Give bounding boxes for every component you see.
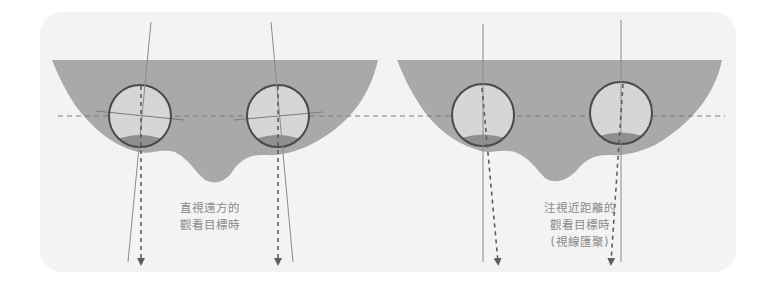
caption-line: 注視近距離的 (525, 200, 635, 217)
caption-near-viewing: 注視近距離的 觀看目標時 (視線匯聚) (525, 200, 635, 251)
caption-line: 觀看目標時 (525, 217, 635, 234)
caption-line: (視線匯聚) (525, 234, 635, 251)
eye-gaze-diagram (0, 0, 768, 287)
caption-line: 觀看目標時 (160, 217, 260, 234)
caption-line: 直視遠方的 (160, 200, 260, 217)
caption-far-viewing: 直視遠方的 觀看目標時 (160, 200, 260, 234)
